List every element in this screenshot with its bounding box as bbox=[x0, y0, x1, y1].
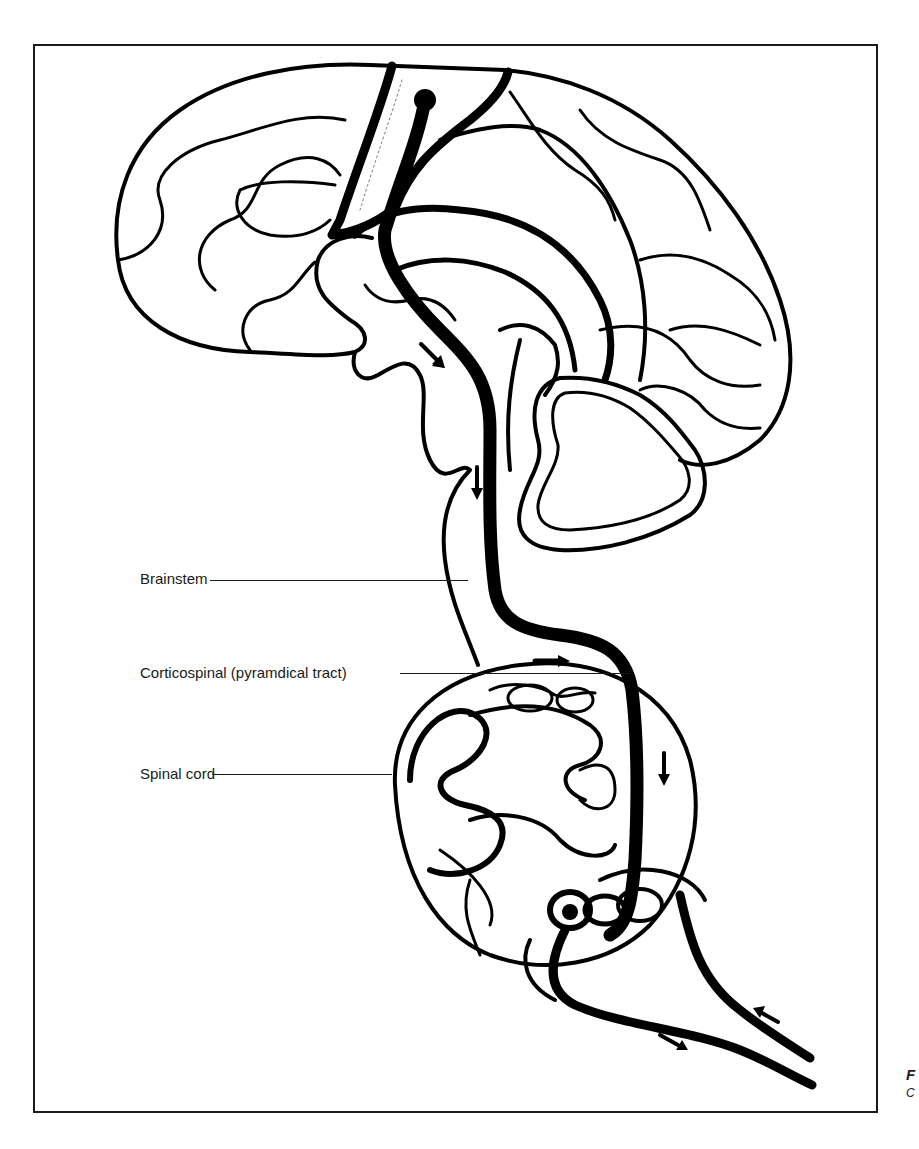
corticospinal-tract-diagram bbox=[0, 0, 919, 1149]
cerebellum-inner bbox=[538, 392, 689, 530]
leader-line-brainstem bbox=[210, 580, 468, 581]
label-corticospinal-tract: Corticospinal (pyramdical tract) bbox=[140, 664, 347, 682]
frontal-gyri bbox=[118, 117, 345, 260]
label-spinal-cord: Spinal cord bbox=[140, 765, 215, 783]
grey-matter bbox=[410, 711, 503, 874]
leader-line-spinal-cord bbox=[212, 774, 392, 775]
brainstem-outline bbox=[354, 352, 478, 665]
label-brainstem: Brainstem bbox=[140, 570, 208, 588]
cerebrum-top-outline bbox=[505, 70, 790, 465]
caption-fragment-line-1: F bbox=[906, 1066, 915, 1084]
peripheral-nerve-efferent bbox=[553, 930, 812, 1085]
arrow-icons bbox=[420, 342, 778, 1050]
leader-line-corticospinal bbox=[400, 673, 630, 674]
caption-fragment-line-2: C bbox=[906, 1084, 915, 1102]
